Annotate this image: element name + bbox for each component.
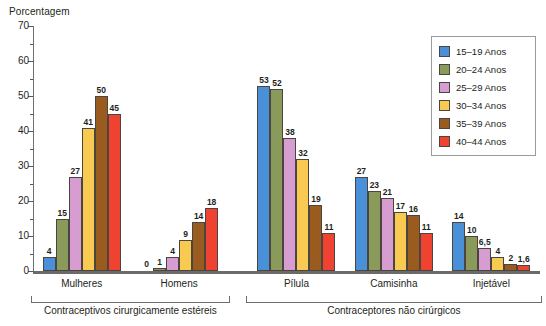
- bar[interactable]: 17: [394, 212, 407, 272]
- bar-value-label: 41: [83, 117, 92, 127]
- bar[interactable]: 27: [69, 177, 82, 272]
- bar[interactable]: 10: [465, 236, 478, 271]
- bar-slot: 19: [309, 26, 322, 271]
- bar[interactable]: 14: [452, 222, 465, 271]
- bar-slot: 38: [283, 26, 296, 271]
- bar-value-label: 27: [70, 166, 79, 176]
- y-tick-label: 60: [18, 56, 29, 66]
- bar[interactable]: 4: [491, 257, 504, 271]
- bar-value-label: 38: [285, 127, 294, 137]
- bar-value-label: 1: [157, 257, 162, 267]
- bar[interactable]: 50: [95, 96, 108, 271]
- bar-value-label: 23: [370, 180, 379, 190]
- legend-swatch-icon: [439, 64, 450, 75]
- bar[interactable]: 11: [420, 233, 433, 272]
- bar-value-label: 18: [207, 197, 216, 207]
- bar-value-label: 17: [396, 201, 405, 211]
- bar-value-label: 52: [272, 78, 281, 88]
- bar-slot: 27: [69, 26, 82, 271]
- legend-swatch-icon: [439, 46, 450, 57]
- bar[interactable]: 45: [108, 114, 121, 272]
- bar[interactable]: 11: [322, 233, 335, 272]
- bar[interactable]: 4: [43, 257, 56, 271]
- bar[interactable]: 21: [381, 198, 394, 272]
- bar[interactable]: 2: [504, 264, 517, 271]
- bar[interactable]: 19: [309, 205, 322, 272]
- bar-group: 01491418: [130, 26, 227, 271]
- bar[interactable]: 16: [407, 215, 420, 271]
- bar[interactable]: 6,5: [478, 248, 491, 271]
- bar[interactable]: 23: [368, 191, 381, 272]
- bar-slot: 14: [192, 26, 205, 271]
- bar-slot: 23: [368, 26, 381, 271]
- bar-slot: 4: [43, 26, 56, 271]
- bar[interactable]: 4: [166, 257, 179, 271]
- bar-slot: 4: [166, 26, 179, 271]
- bar-slot: 1: [153, 26, 166, 271]
- bar-value-label: 19: [311, 194, 320, 204]
- bar-value-label: 53: [259, 75, 268, 85]
- bar[interactable]: 1,6: [517, 265, 530, 271]
- bar-value-label: 15: [57, 208, 66, 218]
- bar[interactable]: 14: [192, 222, 205, 271]
- legend-item-label: 20–24 Anos: [456, 64, 506, 75]
- bracket-label-1: Contraceptivos cirurgicamente estéreis: [31, 305, 230, 316]
- bar-value-label: 50: [96, 85, 105, 95]
- bar-slot: 45: [108, 26, 121, 271]
- bar-chart: Porcentagem 010203040506070 415274150450…: [0, 0, 546, 326]
- bar-value-label: 4: [47, 246, 52, 256]
- bar[interactable]: 9: [179, 240, 192, 272]
- bar-group: 41527415045: [33, 26, 130, 271]
- group-caption-2: Homens: [130, 278, 227, 289]
- legend-item-1[interactable]: 15–19 Anos: [439, 42, 529, 60]
- bar-value-label: 14: [194, 211, 203, 221]
- bar[interactable]: 1: [153, 268, 166, 271]
- bar-value-label: 4: [495, 246, 500, 256]
- bar-value-label: 9: [183, 229, 188, 239]
- legend-swatch-icon: [439, 100, 450, 111]
- group-caption-4: Camisinha: [345, 278, 442, 289]
- legend-swatch-icon: [439, 136, 450, 147]
- group-caption-1: Mulheres: [33, 278, 130, 289]
- y-tick-label: 0: [23, 266, 29, 276]
- bar-slot: 41: [82, 26, 95, 271]
- bar-slot: 53: [257, 26, 270, 271]
- legend-item-label: 40–44 Anos: [456, 136, 506, 147]
- bar-value-label: 4: [170, 246, 175, 256]
- bar-value-label: 32: [298, 148, 307, 158]
- bar[interactable]: 32: [296, 159, 309, 271]
- y-tick-label: 20: [18, 196, 29, 206]
- legend-item-6[interactable]: 40–44 Anos: [439, 132, 529, 150]
- bar-slot: 32: [296, 26, 309, 271]
- y-tick-label: 70: [18, 21, 29, 31]
- legend: 15–19 Anos20–24 Anos25–29 Anos30–34 Anos…: [431, 36, 536, 156]
- bar-slot: 11: [322, 26, 335, 271]
- bar-value-label: 11: [422, 222, 431, 232]
- legend-swatch-icon: [439, 82, 450, 93]
- bar-slot: 21: [381, 26, 394, 271]
- bar[interactable]: 41: [82, 128, 95, 272]
- bar-value-label: 1,6: [518, 254, 530, 264]
- bar[interactable]: 53: [257, 86, 270, 272]
- legend-item-2[interactable]: 20–24 Anos: [439, 60, 529, 78]
- legend-item-label: 35–39 Anos: [456, 118, 506, 129]
- bar[interactable]: 18: [205, 208, 218, 271]
- legend-item-3[interactable]: 25–29 Anos: [439, 78, 529, 96]
- bar-group: 535238321911: [248, 26, 345, 271]
- legend-item-4[interactable]: 30–34 Anos: [439, 96, 529, 114]
- bracket-1: [31, 296, 230, 303]
- bracket-label-2: Contraceptores não cirúrgicos: [246, 305, 542, 316]
- group-caption-5: Injetável: [443, 278, 540, 289]
- bar-slot: 52: [270, 26, 283, 271]
- x-axis-baseline: [33, 271, 540, 274]
- bar-value-label: 0: [144, 259, 149, 269]
- bar-group: 272321171611: [345, 26, 442, 271]
- bar[interactable]: 15: [56, 219, 69, 272]
- legend-item-5[interactable]: 35–39 Anos: [439, 114, 529, 132]
- bar[interactable]: 27: [355, 177, 368, 272]
- bar[interactable]: 38: [283, 138, 296, 271]
- legend-item-label: 15–19 Anos: [456, 46, 506, 57]
- bar-value-label: 27: [357, 166, 366, 176]
- legend-swatch-icon: [439, 118, 450, 129]
- bar[interactable]: 52: [270, 89, 283, 271]
